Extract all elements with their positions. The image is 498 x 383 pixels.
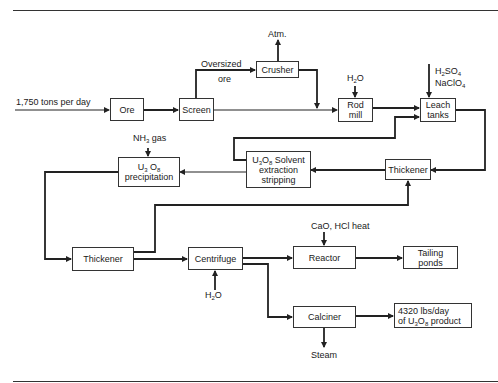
centrifuge-label: Centrifuge bbox=[195, 254, 237, 264]
product-label-2: of U3O8 product bbox=[398, 316, 461, 326]
input-label: 1,750 tons per day bbox=[16, 97, 91, 107]
thickener-right-label: Thickener bbox=[388, 165, 428, 175]
solvent-label-3: stripping bbox=[261, 175, 295, 185]
rod-mill-label-1: Rod bbox=[347, 100, 364, 110]
reactor-label: Reactor bbox=[309, 253, 341, 263]
tailing-ponds-box: Tailing ponds bbox=[403, 246, 458, 269]
ore-box: Ore bbox=[110, 98, 144, 121]
leach-label-1: Leach bbox=[426, 100, 451, 110]
leach-tanks-box: Leach tanks bbox=[420, 98, 456, 122]
solvent-extraction-box: U3O8 Solvent extraction stripping bbox=[246, 151, 311, 188]
screen-box: Screen bbox=[179, 98, 214, 121]
ore-label: Ore bbox=[119, 105, 134, 115]
oversized-label: Oversized bbox=[201, 59, 242, 69]
solvent-label-2: extraction bbox=[259, 165, 298, 175]
crusher-label: Crusher bbox=[261, 65, 293, 75]
solvent-label-1: U3O8 Solvent bbox=[252, 155, 305, 165]
h2o-rod-label: H2O bbox=[347, 73, 364, 83]
crusher-box: Crusher bbox=[256, 61, 299, 78]
thickener-right-box: Thickener bbox=[385, 159, 431, 180]
h2o-centrifuge-label: H2O bbox=[205, 290, 222, 300]
h2so4-label: H2SO4 bbox=[435, 66, 461, 76]
calciner-label: Calciner bbox=[308, 312, 341, 322]
steam-label: Steam bbox=[311, 350, 337, 360]
oversized-ore-label: ore bbox=[218, 74, 231, 84]
thickener-left-box: Thickener bbox=[72, 247, 134, 271]
naclo4-label: NaClO4 bbox=[435, 78, 465, 88]
thickener-left-label: Thickener bbox=[83, 254, 123, 264]
precip-label-2: precipitation bbox=[125, 172, 174, 182]
rod-mill-label-2: mill bbox=[349, 110, 363, 120]
calciner-box: Calciner bbox=[293, 306, 356, 328]
leach-label-2: tanks bbox=[427, 110, 449, 120]
product-label-1: 4320 lbs/day bbox=[398, 306, 449, 316]
precipitation-box: U3 O8 precipitation bbox=[118, 157, 180, 187]
precip-label-1: U3 O8 bbox=[138, 162, 161, 172]
reactor-box: Reactor bbox=[293, 246, 356, 269]
atm-label: Atm. bbox=[268, 29, 287, 39]
reactor-input-label: CaO, HCl heat bbox=[311, 221, 370, 231]
tailing-label-1: Tailing bbox=[418, 248, 444, 258]
tailing-label-2: ponds bbox=[418, 258, 443, 268]
screen-label: Screen bbox=[182, 105, 211, 115]
nh3-label: NH3 gas bbox=[133, 133, 166, 143]
centrifuge-box: Centrifuge bbox=[188, 247, 243, 270]
rod-mill-box: Rod mill bbox=[338, 98, 373, 122]
product-box: 4320 lbs/day of U3O8 product bbox=[394, 303, 472, 328]
